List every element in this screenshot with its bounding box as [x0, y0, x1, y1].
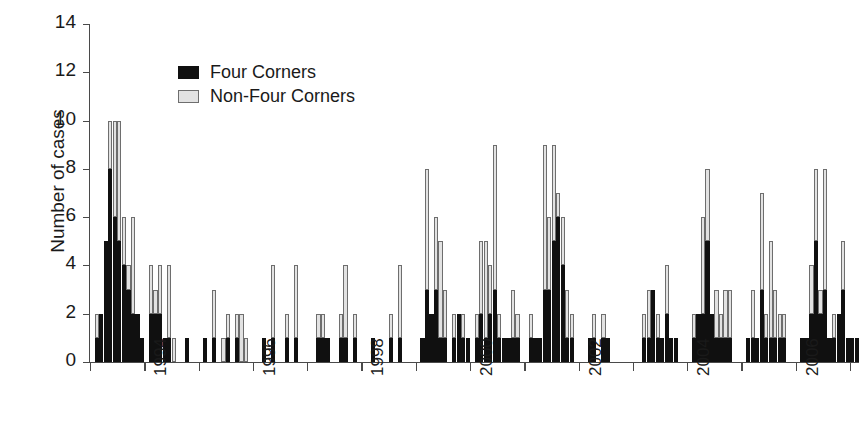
legend-item-non-four-corners: Non-Four Corners [178, 84, 355, 108]
legend-label-non-four-corners: Non-Four Corners [210, 87, 355, 105]
bar-segment-four-corners [353, 338, 357, 362]
x-tick-mark-1994 [144, 363, 145, 371]
bar-segment-non-four-corners [841, 241, 845, 289]
bar [185, 338, 189, 362]
bar-segment-non-four-corners [705, 169, 709, 241]
bar-segment-four-corners [855, 338, 859, 362]
bar-segment-non-four-corners [172, 338, 176, 362]
x-tick-label-1994: 1994 [152, 338, 169, 376]
bar-segment-non-four-corners [760, 193, 764, 290]
bar-segment-non-four-corners [122, 217, 126, 265]
bar-segment-four-corners [226, 338, 230, 362]
bar [140, 338, 144, 362]
bar-segment-four-corners [398, 338, 402, 362]
legend-swatch-four-corners [178, 66, 199, 79]
bar [244, 338, 248, 362]
y-tick-label: 12 [55, 60, 76, 79]
x-tick-label-1996: 1996 [261, 338, 278, 376]
bar-segment-four-corners [570, 338, 574, 362]
bar-segment-non-four-corners [556, 193, 560, 217]
bar [823, 169, 827, 362]
bar [782, 314, 786, 362]
bar-segment-non-four-corners [665, 265, 669, 313]
chart-legend: Four Corners Non-Four Corners [178, 60, 355, 108]
bar-segment-four-corners [389, 338, 393, 362]
legend-swatch-non-four-corners [178, 90, 199, 103]
bar-segment-non-four-corners [814, 169, 818, 241]
x-tick-label-1998: 1998 [369, 338, 386, 376]
x-tick-label-2006: 2006 [804, 338, 821, 376]
bar-segment-non-four-corners [398, 265, 402, 337]
y-tick-label: 10 [55, 109, 76, 128]
bar-segment-non-four-corners [823, 169, 827, 290]
x-tick-mark-2000 [470, 363, 471, 371]
bar-segment-non-four-corners [131, 217, 135, 314]
x-tick-mark-2003 [633, 363, 634, 371]
bar [728, 290, 732, 362]
y-tick-label: 4 [65, 253, 76, 272]
bar [212, 290, 216, 362]
x-tick-label-2000: 2000 [478, 338, 495, 376]
bar-segment-four-corners [203, 338, 207, 362]
bar [172, 338, 176, 362]
bar-segment-non-four-corners [271, 265, 275, 337]
bar [325, 338, 329, 362]
bar-segment-four-corners [443, 338, 447, 362]
bar-segment-four-corners [212, 338, 216, 362]
bar-segment-non-four-corners [570, 314, 574, 338]
legend-item-four-corners: Four Corners [178, 60, 355, 84]
bar [855, 338, 859, 362]
bar [389, 314, 393, 362]
x-tick-mark-2004 [687, 363, 688, 371]
bar-segment-four-corners [294, 338, 298, 362]
bar-segment-non-four-corners [782, 314, 786, 338]
bar [515, 314, 519, 362]
y-tick-label: 8 [65, 157, 76, 176]
x-tick-mark-2002 [579, 363, 580, 371]
bar-segment-non-four-corners [158, 265, 162, 313]
y-tick-label: 14 [55, 12, 76, 31]
x-tick-mark-1993 [90, 363, 91, 371]
bar-segment-non-four-corners [425, 169, 429, 290]
bar-segment-non-four-corners [226, 314, 230, 338]
bar-segment-non-four-corners [244, 338, 248, 362]
x-tick-mark-2007 [850, 363, 851, 371]
bar-segment-non-four-corners [561, 217, 565, 265]
bar-segment-non-four-corners [461, 314, 465, 338]
bar [398, 265, 402, 362]
bar-segment-four-corners [515, 338, 519, 362]
y-tick-label: 0 [65, 350, 76, 369]
bar-segment-non-four-corners [493, 145, 497, 290]
x-tick-label-2004: 2004 [695, 338, 712, 376]
bar-segment-non-four-corners [497, 314, 501, 338]
bar-segment-non-four-corners [321, 314, 325, 338]
bar [285, 314, 289, 362]
bar-segment-four-corners [140, 338, 144, 362]
y-tick-label: 2 [65, 302, 76, 321]
x-tick-mark-1999 [416, 363, 417, 371]
x-tick-mark-2001 [524, 363, 525, 371]
bar [466, 338, 470, 362]
x-tick-label-2002: 2002 [587, 338, 604, 376]
x-tick-mark-2006 [796, 363, 797, 371]
bar-segment-non-four-corners [294, 265, 298, 337]
y-axis: 02468101214 [0, 0, 90, 433]
x-tick-mark-1995 [199, 363, 200, 371]
y-tick-label: 6 [65, 205, 76, 224]
bar-segment-four-corners [674, 338, 678, 362]
chart-figure: Number of cases 02468101214 Four Corners… [0, 0, 859, 433]
bar-segment-four-corners [606, 338, 610, 362]
bar [570, 314, 574, 362]
bar [674, 338, 678, 362]
x-tick-mark-1996 [253, 363, 254, 371]
bar-segment-non-four-corners [285, 314, 289, 338]
bar [226, 314, 230, 362]
bar-segment-non-four-corners [343, 265, 347, 337]
bar-segment-non-four-corners [656, 314, 660, 338]
bar-segment-non-four-corners [601, 314, 605, 338]
bar-segment-non-four-corners [529, 314, 533, 338]
bar [606, 338, 610, 362]
bar-segment-four-corners [466, 338, 470, 362]
bar-segment-four-corners [325, 338, 329, 362]
bar-segment-non-four-corners [443, 290, 447, 338]
